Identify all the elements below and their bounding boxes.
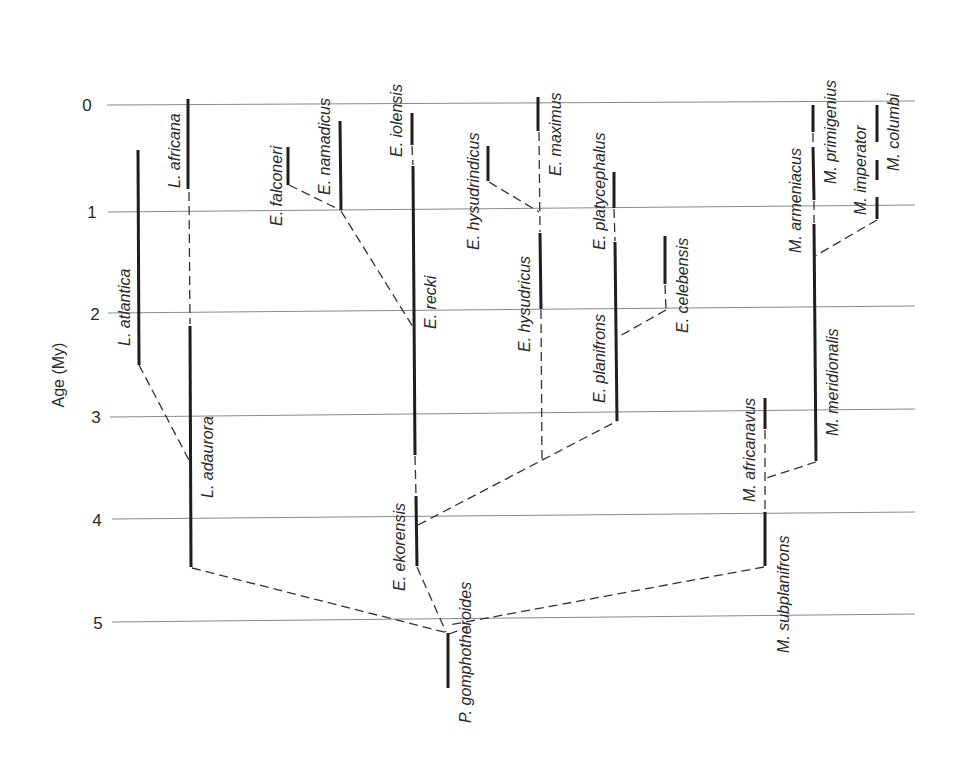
dash-m-imperator-link (815, 220, 877, 256)
dash-hysudrindicus-link (489, 182, 539, 212)
label-m-subplanifrons: M. subplanifrons (775, 536, 792, 653)
dash-celebensis-down (665, 285, 666, 310)
label-e-namadicus: E. namadicus (316, 98, 333, 195)
label-e-planifrons: E. planifrons (591, 314, 608, 403)
label-e-recki: E. recki (422, 275, 439, 329)
bar-e-hysudricus (540, 233, 541, 309)
phylogeny-diagram: 0 1 2 3 4 5 Age (My) (0, 0, 961, 761)
bar-l-adaurora (190, 326, 191, 567)
bar-l-atlantica (138, 150, 139, 365)
bar-e-planifrons (615, 242, 617, 421)
tick-4: 4 (92, 511, 101, 530)
gridline-5 (112, 614, 915, 622)
tick-0: 0 (82, 96, 91, 115)
dash-ekorensis-to-planifrons (418, 421, 617, 525)
bar-e-namadicus (340, 121, 341, 210)
dash-l-adaurora-to-p (192, 568, 448, 633)
y-axis-title: Age (My) (50, 343, 67, 408)
tick-1: 1 (87, 203, 96, 222)
dash-celebensis-link (618, 310, 666, 337)
dash-l-africana (189, 192, 190, 324)
tick-2: 2 (90, 305, 99, 324)
label-m-columbi: M. columbi (885, 93, 902, 171)
dash-platycephalus-gap (614, 209, 615, 241)
label-e-platycephalus: E. platycephalus (591, 133, 608, 250)
bar-e-recki (413, 166, 415, 455)
bar-e-ekorensis (416, 496, 417, 566)
dash-m-meridionalis-link (766, 462, 816, 478)
gridline-2 (108, 306, 915, 313)
label-m-africanavus: M. africanavus (741, 398, 758, 502)
dash-hysudricus-down (541, 310, 542, 461)
label-e-falconeri: E. falconeri (268, 146, 285, 226)
label-p-gomphotheroides: P. gomphotheroides (457, 582, 474, 723)
label-m-imperator: M. imperator (852, 125, 869, 215)
gridline-0 (107, 101, 915, 105)
label-e-celebensis: E. celebensis (674, 238, 691, 333)
label-e-ekorensis: E. ekorensis (391, 503, 408, 591)
dash-ekorensis-to-p (417, 567, 446, 632)
bar-m-meridionalis (814, 224, 816, 461)
label-l-africana: L. africana (166, 113, 183, 188)
taxon-labels: L. atlantica L. africana L. adaurora E. … (116, 80, 902, 723)
dash-maximus-hysudricus (539, 132, 540, 232)
label-e-hysudricus: E. hysudricus (516, 256, 533, 352)
label-e-maximus: E. maximus (547, 92, 564, 176)
y-axis: 0 1 2 3 4 5 Age (My) (50, 96, 103, 633)
dash-recki-gap (412, 146, 413, 165)
label-e-hysudrindicus: E. hysudrindicus (465, 133, 482, 250)
label-m-armeniacus: M. armeniacus (787, 148, 804, 253)
label-l-adaurora: L. adaurora (199, 416, 216, 498)
bar-m-armeniacus (813, 147, 814, 200)
tick-3: 3 (91, 408, 100, 427)
gridline-4 (112, 512, 915, 519)
label-m-primigenius: M. primigenius (822, 80, 839, 184)
label-m-meridionalis: M. meridionalis (824, 328, 841, 436)
label-e-iolensis: E. iolensis (388, 84, 405, 157)
dash-namadicus-to-recki (341, 211, 413, 327)
dash-l-atlantica-link (139, 365, 190, 462)
dash-recki-ekorensis (415, 456, 416, 495)
label-l-atlantica: L. atlantica (116, 269, 133, 346)
gridline-3 (110, 409, 915, 417)
tick-5: 5 (93, 614, 102, 633)
range-bars (138, 97, 877, 688)
